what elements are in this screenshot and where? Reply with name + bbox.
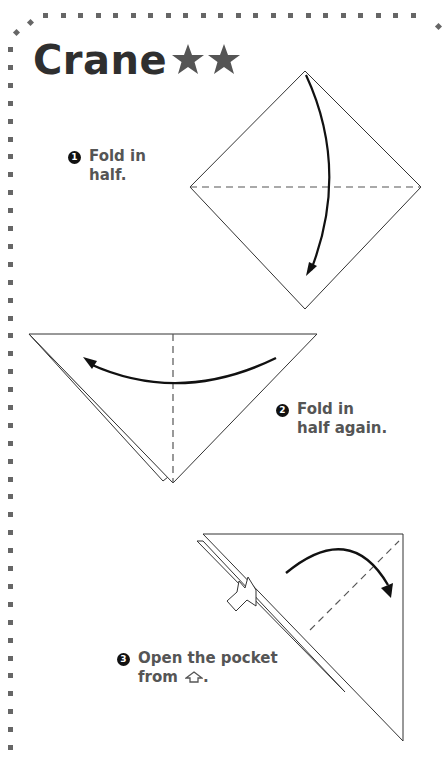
fold-diagrams: [0, 0, 445, 762]
step-2-diagram: [29, 334, 317, 483]
origami-instruction-page: Crane 1Fold in half. 2Fold in half again…: [0, 0, 445, 762]
step-1-diagram: [190, 71, 421, 309]
step-3-diagram: [197, 534, 403, 741]
